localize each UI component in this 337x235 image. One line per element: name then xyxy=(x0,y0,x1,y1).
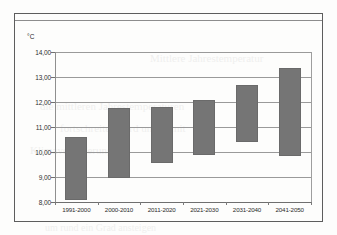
y-axis-tick-label: 11,00 xyxy=(11,124,51,131)
x-axis-tick-mark xyxy=(98,202,99,205)
y-axis-tick-labels: 8,009,0010,0011,0012,0013,0014,00 xyxy=(9,52,51,202)
x-axis-tick-label: 2000-2010 xyxy=(98,206,141,213)
y-axis-tick-mark xyxy=(51,177,55,178)
x-axis-tick-label: 2041-2050 xyxy=(268,206,311,213)
x-axis-tick-mark xyxy=(268,202,269,205)
gridline xyxy=(55,77,311,78)
gridline xyxy=(55,127,311,128)
gridline xyxy=(55,52,311,53)
bar xyxy=(108,108,130,178)
y-axis-tick-mark xyxy=(51,77,55,78)
y-axis-tick-mark xyxy=(51,127,55,128)
y-axis-tick-label: 8,00 xyxy=(11,199,51,206)
x-axis-tick-label: 2011-2020 xyxy=(140,206,183,213)
x-axis-tick-label: 2021-2030 xyxy=(183,206,226,213)
plot-area xyxy=(55,52,311,202)
x-axis-tick-label: 2031-2040 xyxy=(226,206,269,213)
x-axis-tick-mark xyxy=(55,202,56,205)
y-axis-tick-label: 9,00 xyxy=(11,174,51,181)
y-axis-tick-label: 13,00 xyxy=(11,74,51,81)
y-axis-tick-label: 14,00 xyxy=(11,49,51,56)
x-axis-tick-mark xyxy=(140,202,141,205)
y-axis-tick-mark xyxy=(51,52,55,53)
scanned-page: Mittlere Jahrestemperatur die mittleren … xyxy=(0,0,337,235)
chart-top-rule xyxy=(15,20,322,21)
gridline xyxy=(55,152,311,153)
y-axis-line xyxy=(55,52,56,202)
x-axis-tick-mark xyxy=(183,202,184,205)
x-axis-tick-label: 1991-2000 xyxy=(55,206,98,213)
bar xyxy=(236,85,258,143)
y-axis-tick-label: 10,00 xyxy=(11,149,51,156)
x-axis-tick-labels: 1991-20002000-20102011-20202021-20302031… xyxy=(55,206,311,218)
bar xyxy=(193,100,215,154)
plot-right-edge xyxy=(311,52,312,202)
background-text: um rund ein Grad ansteigen xyxy=(45,222,156,233)
y-axis-unit-label: °C xyxy=(27,33,35,40)
bar xyxy=(65,137,87,200)
gridline xyxy=(55,102,311,103)
y-axis-tick-mark xyxy=(51,102,55,103)
x-axis-tick-mark xyxy=(226,202,227,205)
bar xyxy=(151,107,173,163)
bar xyxy=(279,68,301,156)
gridline xyxy=(55,177,311,178)
y-axis-tick-mark xyxy=(51,152,55,153)
y-axis-tick-label: 12,00 xyxy=(11,99,51,106)
x-axis-tick-mark xyxy=(311,202,312,205)
